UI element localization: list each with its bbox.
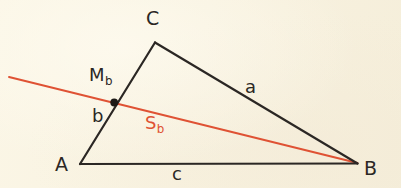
vertex-label-c: C [146,9,159,28]
median-label-subscript: b [157,122,165,136]
triangle-side-c [80,164,358,165]
side-label-a: a [245,78,256,96]
midpoint-label-mb: Mb [89,66,112,84]
side-label-c: c [172,165,182,183]
median-label-sb: Sb [145,114,164,132]
side-label-b: b [92,107,103,125]
midpoint-label-subscript: b [105,74,113,88]
median-label-main: S [145,112,156,133]
midpoint-label-main: M [89,64,105,85]
midpoint-dot-mb [110,99,118,107]
geometry-diagram: A B C a b c Mb Sb [0,0,401,188]
vertex-label-a: A [55,155,68,174]
triangle-side-a [155,43,358,164]
median-line-sb [9,77,358,163]
vertex-label-b: B [364,159,377,178]
